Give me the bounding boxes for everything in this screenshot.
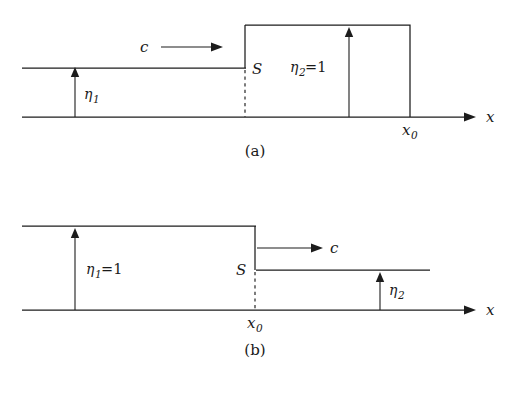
eta2-greek-a: η: [290, 59, 299, 75]
eta2-arrow-a: [345, 27, 353, 117]
x-axis-arrowhead-b: [464, 306, 476, 315]
panel-caption-a: (a): [245, 142, 266, 160]
eta2-label-a: η 2 =1: [290, 59, 326, 78]
eta1-label-b: η 1 =1: [86, 261, 122, 280]
x0-subscript-a: 0: [411, 129, 418, 141]
eta1-label-a: η 1: [84, 86, 100, 105]
shock-label-a: S: [252, 60, 262, 78]
panel-caption-b: (b): [244, 341, 265, 359]
eta1-arrow-head-b: [71, 228, 79, 238]
eta1-equals-one-b: =1: [101, 261, 122, 277]
eta1-greek-a: η: [84, 86, 93, 102]
x0-var-a: x: [402, 121, 411, 139]
x-axis-label-b: x: [486, 301, 495, 319]
x0-var-b: x: [247, 314, 256, 332]
eta2-equals-one-a: =1: [305, 59, 326, 75]
panel-b: c S η 1 =1 η 2 x 0 x (b): [0, 190, 526, 393]
eta2-arrow-head-a: [345, 27, 353, 37]
downstream-block-a: [245, 25, 410, 117]
speed-arrow-a: [161, 43, 223, 52]
x0-subscript-b: 0: [256, 322, 263, 334]
figure-root: c S η 1 η 2 =1 x 0 x (a): [0, 0, 526, 393]
eta1-arrow-a: [71, 67, 79, 117]
speed-label-a: c: [140, 38, 149, 56]
eta1-greek-b: η: [86, 261, 95, 277]
eta2-greek-b: η: [389, 282, 398, 298]
speed-arrow-head-a: [211, 43, 223, 52]
shock-label-b: S: [236, 261, 246, 279]
speed-label-b: c: [330, 239, 339, 257]
eta2-arrow-head-b: [376, 272, 384, 282]
speed-arrow-b: [257, 244, 323, 253]
speed-arrow-head-b: [311, 244, 323, 253]
eta1-arrow-b: [71, 228, 79, 310]
eta1-subscript-a: 1: [93, 93, 100, 105]
eta2-subscript-b: 2: [397, 289, 405, 301]
eta2-arrow-b: [376, 272, 384, 310]
eta2-label-b: η 2: [389, 282, 405, 301]
x0-label-a: x 0: [402, 121, 418, 141]
x-axis-arrowhead-a: [464, 113, 476, 122]
panel-a: c S η 1 η 2 =1 x 0 x (a): [0, 0, 526, 190]
x0-label-b: x 0: [247, 314, 263, 334]
x-axis-label-a: x: [486, 108, 495, 126]
